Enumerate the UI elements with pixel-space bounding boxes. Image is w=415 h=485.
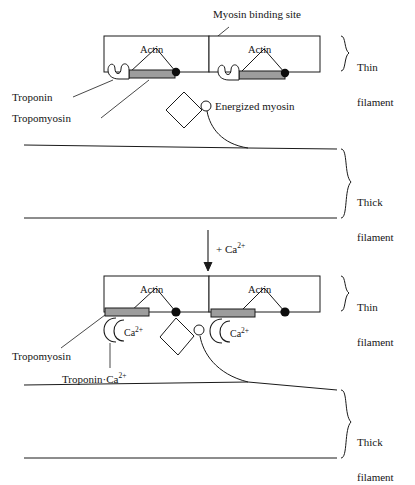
thin-filament-brace-top [341,36,349,71]
calcium-arrow-sup: 2+ [237,241,245,250]
tropomyosin-bar-1-bottom [105,308,149,316]
calcium-tag-1-bottom: Ca2+ [124,324,143,339]
thin-filament-label-bottom: Thin filament [357,279,394,371]
troponin-leader-top [73,80,113,97]
calcium-arrow [204,230,212,271]
actin-label-2-bottom: Actin [248,284,271,296]
troponin-label-top: Troponin [12,91,53,103]
energized-myosin-label-top: Energized myosin [215,100,295,112]
calcium-tag-1-sup: 2+ [135,325,143,334]
actin-label-2-top: Actin [248,44,271,56]
calcium-tag-1-text: Ca [124,327,135,338]
binding-site-dot-1-top [172,68,180,76]
thick-filament-label-bottom-line2: filament [357,472,394,484]
calcium-tag-2-bottom: Ca2+ [230,325,249,340]
myosin-binding-site-label: Myosin binding site [213,8,301,20]
thin-filament-label-bottom-line1: Thin [357,302,394,314]
thick-filament-brace-top [341,149,351,218]
thick-filament-top [24,145,337,218]
binding-site-dot-2-top [281,69,289,77]
thin-filament-label-bottom-line2: filament [357,337,394,349]
troponin-ca-label-text: Troponin·Ca [62,373,118,385]
troponin-ca-label-bottom: Troponin·Ca2+ [62,370,126,385]
calcium-arrow-label: + Ca2+ [216,240,245,255]
thin-filament-label-line1: Thin [357,62,394,74]
calcium-arrow-text: + Ca [216,243,237,255]
troponin-ca-1-bottom [104,318,124,342]
thick-filament-label-line2: filament [357,232,394,244]
thick-filament-label-top: Thick filament [357,174,394,266]
thick-filament-bottom [24,382,337,458]
thick-filament-label-line1: Thick [357,197,394,209]
calcium-tag-2-sup: 2+ [241,326,249,335]
tropomyosin-leader-bottom [61,315,105,348]
binding-site-dot-1-bottom [171,307,180,316]
binding-site-dot-2-bottom [280,307,289,316]
thick-filament-brace-bottom [341,390,351,458]
actin-label-1-top: Actin [140,44,163,56]
actin-label-1-bottom: Actin [140,284,163,296]
thick-filament-label-bottom-line1: Thick [357,437,394,449]
thick-filament-label-bottom: Thick filament [357,414,394,485]
tropomyosin-label-top: Tropomyosin [12,112,71,124]
tropomyosin-leader-top [101,80,149,118]
troponin-ca-2-bottom [210,319,230,343]
calcium-tag-2-text: Ca [230,328,241,339]
tropomyosin-bar-1-top [129,70,175,78]
thin-filament-brace-bottom [341,276,349,311]
tropomyosin-bar-2-bottom [211,309,255,317]
tropomyosin-label-bottom: Tropomyosin [12,350,71,362]
thin-filament-label-line2: filament [357,97,394,109]
tropomyosin-bar-2-top [239,71,285,79]
troponin-ca-label-sup: 2+ [118,371,126,380]
thin-filament-label-top: Thin filament [357,39,394,131]
